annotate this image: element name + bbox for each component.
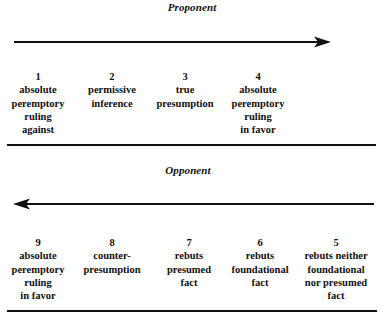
proponent-column-4: 4 absolute peremptory ruling in favor (232, 70, 285, 136)
opponent-column-7: 7 rebuts presumed fact (167, 236, 211, 289)
opponent-column-8: 8 counter- presumption (84, 236, 141, 276)
column-number: 1 (12, 70, 65, 83)
column-label-line: absolute (232, 83, 285, 96)
column-number: 6 (231, 236, 288, 249)
column-label-line: true (157, 83, 214, 96)
bottom-rule (7, 310, 377, 312)
column-number: 9 (12, 236, 65, 249)
column-label-line: foundational (231, 263, 288, 276)
column-label-line: in favor (12, 289, 65, 302)
column-label-line: rebuts (167, 249, 211, 262)
column-number: 2 (88, 70, 136, 83)
column-number: 8 (84, 236, 141, 249)
column-label-line: fact (231, 276, 288, 289)
column-label-line: presumed (167, 263, 211, 276)
proponent-column-1: 1 absolute peremptory ruling against (12, 70, 65, 136)
column-label-line: fact (167, 276, 211, 289)
column-number: 4 (232, 70, 285, 83)
column-number: 5 (304, 236, 367, 249)
proponent-column-2: 2 permissive inference (88, 70, 136, 110)
column-label-line: nor presumed (304, 276, 367, 289)
column-label-line: in favor (232, 123, 285, 136)
column-label-line: inference (88, 97, 136, 110)
proponent-arrow-right-icon (14, 37, 331, 48)
column-label-line: counter- (84, 249, 141, 262)
column-label-line: ruling (232, 110, 285, 123)
column-label-line: rebuts neither (304, 249, 367, 262)
proponent-column-3: 3 true presumption (157, 70, 214, 110)
column-label-line: absolute (12, 83, 65, 96)
column-label-line: peremptory (232, 97, 285, 110)
opponent-heading: Opponent (165, 164, 210, 176)
column-number: 7 (167, 236, 211, 249)
opponent-column-9: 9 absolute peremptory ruling in favor (12, 236, 65, 302)
column-number: 3 (157, 70, 214, 83)
column-label-line: ruling (12, 276, 65, 289)
column-label-line: foundational (304, 263, 367, 276)
opponent-arrow-left-icon (13, 199, 374, 210)
column-label-line: fact (304, 289, 367, 302)
column-label-line: presumption (84, 263, 141, 276)
opponent-column-6: 6 rebuts foundational fact (231, 236, 288, 289)
opponent-column-5: 5 rebuts neither foundational nor presum… (304, 236, 367, 302)
column-label-line: peremptory (12, 97, 65, 110)
column-label-line: peremptory (12, 263, 65, 276)
section-divider (7, 144, 376, 146)
column-label-line: ruling (12, 110, 65, 123)
column-label-line: presumption (157, 97, 214, 110)
column-label-line: permissive (88, 83, 136, 96)
column-label-line: absolute (12, 249, 65, 262)
column-label-line: against (12, 123, 65, 136)
column-label-line: rebuts (231, 249, 288, 262)
